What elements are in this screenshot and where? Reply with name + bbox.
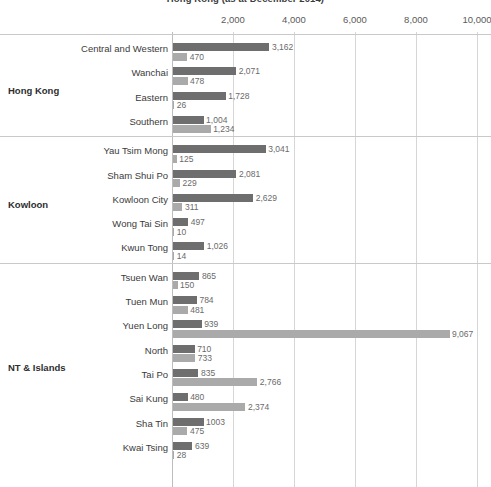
category-label: Sham Shui Po — [4, 170, 172, 181]
bar-value-label: 26 — [177, 100, 186, 110]
bar-series-1 — [173, 218, 188, 226]
bar-value-label: 865 — [202, 271, 216, 281]
bar-value-label: 3,162 — [272, 42, 293, 52]
bar-value-label: 639 — [195, 441, 209, 451]
category-label: Kwun Tong — [4, 242, 172, 253]
bar-series-2 — [173, 252, 174, 260]
bar-series-2 — [173, 53, 187, 61]
bar-value-label: 2,766 — [260, 377, 281, 387]
bar-value-label: 28 — [177, 450, 186, 460]
category-label: Tuen Mun — [4, 296, 172, 307]
chart-row: Kowloon City2,629311 — [0, 193, 491, 217]
bar-series-2 — [173, 155, 177, 163]
bar-series-2 — [173, 378, 257, 386]
bar-value-label: 470 — [190, 52, 204, 62]
x-axis-tick-10000: 10,000 — [462, 14, 491, 25]
bar-value-label: 2,374 — [248, 402, 269, 412]
bar-series-1 — [173, 442, 192, 450]
bar-series-1 — [173, 369, 198, 377]
bar-series-1 — [173, 272, 199, 280]
x-axis-tick-2000: 2,000 — [221, 14, 245, 25]
bar-chart: Hong Kong (as at December 2014) 2,0004,0… — [0, 0, 491, 487]
chart-row: Wong Tai Sin49710 — [0, 217, 491, 241]
bar-value-label: 9,067 — [452, 329, 473, 339]
bar-series-2 — [173, 125, 211, 133]
bar-series-1 — [173, 67, 236, 75]
bar-series-1 — [173, 345, 195, 353]
bar-value-label: 478 — [190, 76, 204, 86]
section-divider — [0, 263, 491, 264]
category-label: North — [4, 345, 172, 356]
bar-series-2 — [173, 306, 188, 314]
category-label: Wong Tai Sin — [4, 218, 172, 229]
bar-series-1 — [173, 393, 188, 401]
group-label-nt-islands: NT & Islands — [8, 362, 66, 373]
bar-series-2 — [173, 403, 245, 411]
chart-row: North710733 — [0, 344, 491, 368]
chart-row: Central and Western3,162470 — [0, 42, 491, 66]
chart-row: Eastern1,72826 — [0, 91, 491, 115]
category-label: Central and Western — [4, 43, 172, 54]
bar-value-label: 2,629 — [256, 193, 277, 203]
category-label: Sha Tin — [4, 418, 172, 429]
bar-series-2 — [173, 451, 174, 459]
bar-value-label: 480 — [190, 392, 204, 402]
chart-row: Tai Po8352,766 — [0, 368, 491, 392]
category-label: Yau Tsim Mong — [4, 145, 172, 156]
bar-series-1 — [173, 194, 253, 202]
chart-row: Wanchai2,071478 — [0, 66, 491, 90]
bar-series-2 — [173, 427, 187, 435]
bar-value-label: 481 — [190, 305, 204, 315]
bar-series-1 — [173, 320, 202, 328]
bar-series-1 — [173, 92, 226, 100]
group-label-kowloon: Kowloon — [8, 199, 48, 210]
plot-area: Central and Western3,162470Wanchai2,0714… — [0, 32, 491, 487]
x-axis-tick-4000: 4,000 — [282, 14, 306, 25]
bar-value-label: 733 — [198, 353, 212, 363]
bar-series-1 — [173, 418, 204, 426]
bar-value-label: 2,071 — [239, 66, 260, 76]
bar-series-2 — [173, 203, 182, 211]
section-divider — [0, 136, 491, 137]
bar-value-label: 497 — [191, 217, 205, 227]
category-label: Yuen Long — [4, 320, 172, 331]
chart-row: Sha Tin1003475 — [0, 417, 491, 441]
bar-value-label: 1,728 — [228, 91, 249, 101]
bar-series-2 — [173, 179, 180, 187]
bar-value-label: 475 — [190, 426, 204, 436]
group-label-hong-kong: Hong Kong — [8, 85, 59, 96]
chart-row: Yau Tsim Mong3,041125 — [0, 144, 491, 168]
category-label: Sai Kung — [4, 393, 172, 404]
section-divider — [0, 34, 491, 35]
chart-row: Sai Kung4802,374 — [0, 392, 491, 416]
chart-title: Hong Kong (as at December 2014) — [0, 0, 491, 4]
bar-value-label: 1003 — [206, 417, 225, 427]
bar-value-label: 1,234 — [213, 124, 234, 134]
bar-value-label: 3,041 — [268, 144, 289, 154]
bar-value-label: 311 — [185, 202, 199, 212]
bar-value-label: 1,004 — [206, 115, 227, 125]
bar-series-2 — [173, 330, 450, 338]
category-label: Tsuen Wan — [4, 272, 172, 283]
chart-row: Sham Shui Po2,081229 — [0, 169, 491, 193]
x-axis-tick-8000: 8,000 — [404, 14, 428, 25]
x-axis-tick-labels: 2,0004,0006,0008,00010,000 — [0, 14, 491, 30]
bar-series-2 — [173, 101, 174, 109]
bar-value-label: 784 — [199, 295, 213, 305]
bar-series-1 — [173, 170, 236, 178]
bar-series-1 — [173, 242, 204, 250]
bar-series-1 — [173, 43, 269, 51]
category-label: Wanchai — [4, 67, 172, 78]
bar-value-label: 2,081 — [239, 169, 260, 179]
x-axis-tick-6000: 6,000 — [343, 14, 367, 25]
bar-value-label: 125 — [179, 154, 193, 164]
chart-row: Tuen Mun784481 — [0, 295, 491, 319]
bar-series-2 — [173, 354, 195, 362]
category-label: Southern — [4, 116, 172, 127]
category-label: Kwai Tsing — [4, 442, 172, 453]
bar-value-label: 710 — [197, 344, 211, 354]
bar-value-label: 835 — [201, 368, 215, 378]
bar-series-1 — [173, 145, 266, 153]
bar-series-2 — [173, 281, 178, 289]
chart-row: Yuen Long9399,067 — [0, 319, 491, 343]
